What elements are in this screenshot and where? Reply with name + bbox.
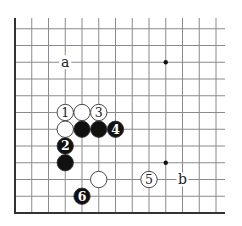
- black-stone-6: 6: [74, 188, 90, 204]
- marker-b: b: [178, 171, 187, 187]
- white-stone-3: 3: [91, 104, 107, 120]
- star-point: [164, 60, 168, 64]
- black-stone-4: 4: [107, 121, 123, 137]
- stone-disc: [91, 121, 107, 137]
- white-stone: [91, 171, 107, 187]
- white-stone-1: 1: [57, 104, 73, 120]
- black-stone: [57, 155, 73, 171]
- stone-disc: [57, 121, 73, 137]
- stone-disc: [74, 104, 90, 120]
- move-number: 2: [61, 138, 70, 153]
- board-grid: [15, 18, 225, 214]
- move-number: 6: [78, 189, 87, 204]
- black-stone: [91, 121, 107, 137]
- go-board: ab 134265: [0, 0, 242, 226]
- stone-disc: [57, 155, 73, 171]
- move-number: 5: [145, 172, 153, 187]
- black-stone-2: 2: [57, 138, 73, 154]
- move-number: 4: [111, 122, 120, 137]
- stone-disc: [91, 171, 107, 187]
- move-number: 3: [95, 105, 103, 120]
- black-stone: [74, 121, 90, 137]
- white-stone: [57, 121, 73, 137]
- white-stone-5: 5: [141, 171, 157, 187]
- move-number: 1: [61, 105, 69, 120]
- marker-a: a: [61, 54, 69, 70]
- star-point: [164, 161, 168, 165]
- stone-disc: [74, 121, 90, 137]
- stones: 134265: [57, 104, 157, 204]
- white-stone: [74, 104, 90, 120]
